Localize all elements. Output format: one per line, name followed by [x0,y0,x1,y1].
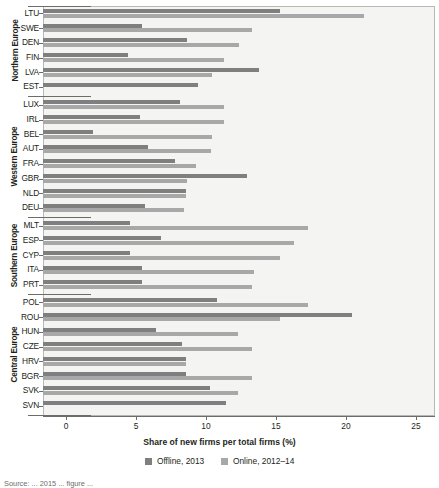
bar-offline-irl [43,115,140,119]
bar-offline-est [43,83,198,87]
bar-row: LUX [43,97,435,112]
legend-item-online: Online, 2012–14 [221,456,295,466]
chart-legend: Offline, 2013 Online, 2012–14 [0,456,439,466]
group-label-northern-europe: Northern Europe [0,6,30,94]
bar-offline-prt [43,280,142,284]
bar-online-bgr [43,376,252,380]
bar-row: ROU [43,310,435,325]
bar-online-swe [43,28,252,32]
bar-row: FRA [43,156,435,171]
group-separator [28,217,91,218]
bar-row: CZE [43,339,435,354]
x-tick-10 [206,416,207,420]
x-tick-25 [416,416,417,420]
bar-row: MLT [43,218,435,233]
group-separator [28,96,91,97]
bar-offline-esp [43,236,161,240]
bar-offline-ltu [43,9,280,13]
bar-offline-ita [43,266,142,270]
bar-row: DEU [43,201,435,216]
bar-offline-den [43,38,187,42]
x-axis-line [43,416,435,417]
bar-online-mlt [43,226,308,230]
bar-row: EST [43,80,435,95]
x-axis-title: Share of new firms per total firms (%) [0,437,439,447]
group-label-central-europe: Central Europe [0,295,30,413]
bar-online-fin [43,58,224,62]
bar-online-prt [43,285,252,289]
bar-row: IRL [43,112,435,127]
bar-offline-pol [43,298,217,302]
bar-row: LTU [43,6,435,21]
x-tick-20 [346,416,347,420]
bar-row: HUN [43,325,435,340]
bar-online-hrv [43,362,186,366]
bar-offline-nld [43,189,186,193]
x-tick-label-20: 20 [331,421,361,431]
bar-row: SWE [43,21,435,36]
bar-offline-svn [43,401,226,405]
bar-online-cze [43,347,252,351]
source-note: Source: ... 2015 ... figure ... [4,479,93,488]
bar-online-pol [43,303,308,307]
bar-offline-gbr [43,174,247,178]
x-tick-5 [136,416,137,420]
bar-row: ITA [43,263,435,278]
x-tick-label-0: 0 [51,421,81,431]
bar-offline-aut [43,145,148,149]
bar-online-bel [43,135,212,139]
bar-offline-cyp [43,251,130,255]
bar-online-irl [43,120,224,124]
x-tick-label-10: 10 [191,421,221,431]
bar-offline-bel [43,130,93,134]
bar-online-lux [43,105,224,109]
category-tick [39,406,43,407]
bar-offline-lva [43,68,259,72]
group-label-western-europe: Western Europe [0,97,30,215]
bar-offline-swe [43,24,142,28]
legend-label-offline: Offline, 2013 [157,456,204,466]
bar-row: CYP [43,248,435,263]
bar-row: NLD [43,186,435,201]
x-tick-15 [276,416,277,420]
bar-online-cyp [43,256,280,260]
bar-online-svk [43,391,238,395]
bar-online-ita [43,270,254,274]
bar-row: ESP [43,233,435,248]
bar-offline-svk [43,386,210,390]
bar-online-deu [43,208,184,212]
bar-online-gbr [43,179,187,183]
bar-offline-fin [43,53,128,57]
bar-offline-mlt [43,221,130,225]
category-tick [39,87,43,88]
bar-row: PRT [43,277,435,292]
bar-offline-lux [43,100,180,104]
group-separator [28,294,91,295]
bar-online-rou [43,317,280,321]
bar-row: AUT [43,142,435,157]
bar-online-den [43,43,239,47]
x-tick-0 [66,416,67,420]
legend-label-online: Online, 2012–14 [233,456,294,466]
bar-offline-bgr [43,372,186,376]
bar-offline-hun [43,328,156,332]
bar-online-fra [43,164,196,168]
bar-row: FIN [43,50,435,65]
bar-online-esp [43,241,294,245]
bar-offline-rou [43,313,352,317]
bar-row: POL [43,295,435,310]
bar-online-lva [43,73,212,77]
bar-row: SVN [43,398,435,413]
bar-offline-hrv [43,357,186,361]
bar-row: DEN [43,35,435,50]
bar-offline-cze [43,342,182,346]
bar-row: HRV [43,354,435,369]
bar-online-ltu [43,14,364,18]
x-tick-label-15: 15 [261,421,291,431]
legend-item-offline: Offline, 2013 [145,456,205,466]
x-tick-label-5: 5 [121,421,151,431]
bar-row: BGR [43,369,435,384]
bar-row: SVK [43,384,435,399]
group-separator-top [28,6,91,7]
